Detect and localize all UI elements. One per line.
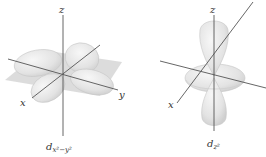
z-axis-label: z [209,4,216,15]
x-axis-label: x [168,99,174,110]
dx2-y2-diagram: z x y dx²−y² [5,4,125,154]
dx2-y2-caption: dx²−y² [46,141,72,154]
orbital-diagrams: z x y dx²−y² z x dz² [0,0,266,157]
x-axis-label: x [20,97,26,108]
dz2-caption: dz² [207,138,220,151]
dz2-diagram: z x dz² [160,2,266,151]
z-axis-label: z [58,4,65,15]
y-axis-label: y [118,89,125,100]
